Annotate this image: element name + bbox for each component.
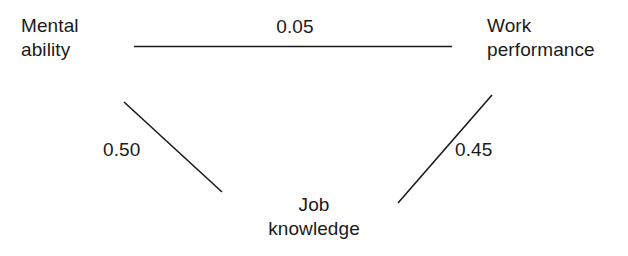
path-coefficient-ability-knowledge: 0.50 [103,139,140,161]
path-coefficient-ability-performance: 0.05 [270,16,320,38]
node-label-mental-ability: Mental ability [21,14,79,62]
path-diagram-canvas: Mental ability Work performance Job know… [0,0,628,256]
path-coefficient-knowledge-performance: 0.45 [455,139,492,161]
node-label-work-performance: Work performance [487,14,595,62]
node-label-job-knowledge: Job knowledge [253,193,375,241]
